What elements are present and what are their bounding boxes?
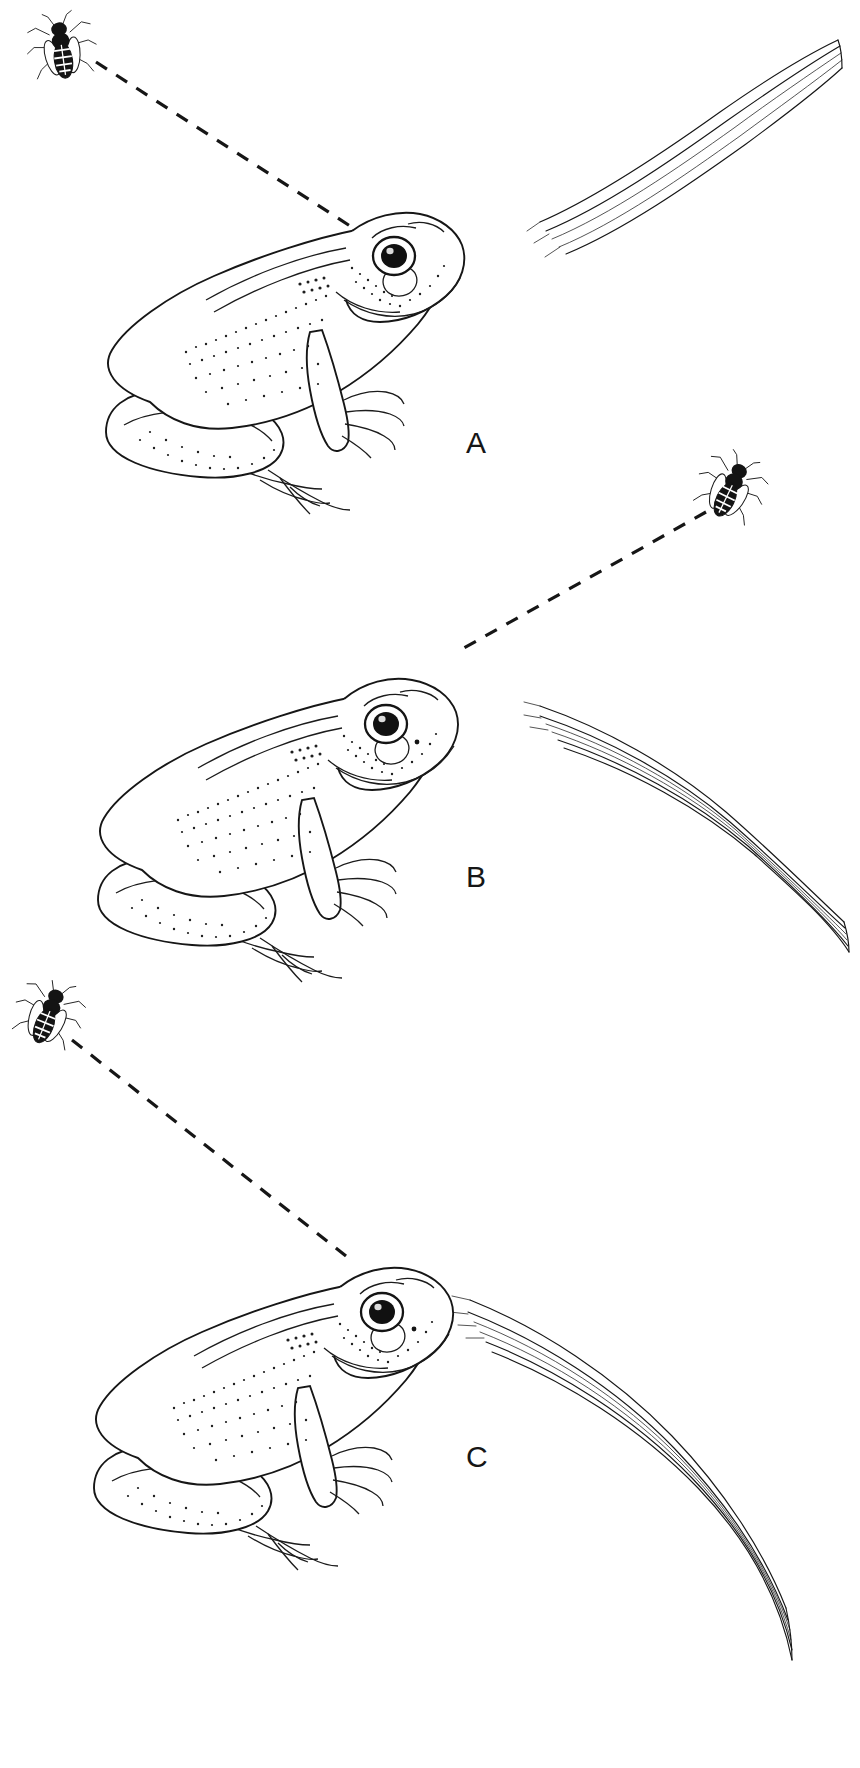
- sight-line: [96, 62, 378, 244]
- panel-b: [0, 440, 860, 1000]
- grass-blade: [524, 702, 849, 952]
- grass-blade: [450, 1296, 792, 1660]
- figure-root: A B C: [0, 0, 860, 1768]
- panel-b-artwork: [0, 440, 860, 1000]
- frog-eye: [373, 237, 415, 275]
- grass-blade: [527, 40, 842, 257]
- panel-label-b: B: [466, 862, 487, 892]
- sight-line: [72, 1040, 346, 1256]
- panel-c-artwork: [0, 980, 860, 1768]
- frog-eye: [361, 1293, 403, 1331]
- bee-icon: [5, 980, 94, 1055]
- frog-illustration: [98, 679, 458, 982]
- panel-c: [0, 980, 860, 1768]
- bee-icon: [22, 8, 100, 83]
- frog-illustration: [94, 1268, 453, 1570]
- panel-label-c: C: [466, 1442, 488, 1472]
- sight-line: [464, 512, 706, 648]
- bee-icon: [686, 441, 777, 531]
- panel-label-a: A: [466, 428, 487, 458]
- frog-eye: [365, 705, 407, 743]
